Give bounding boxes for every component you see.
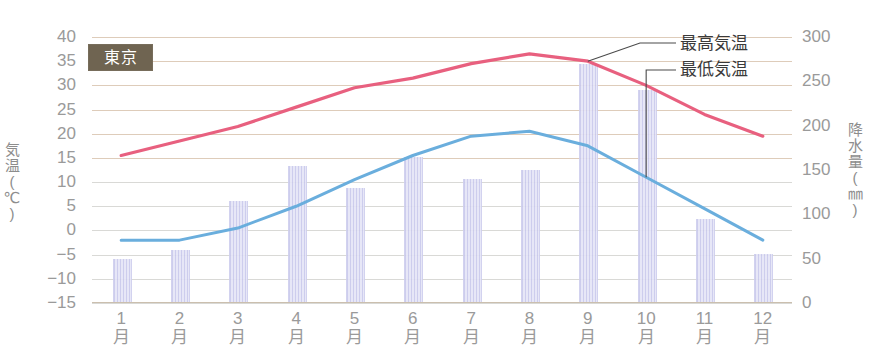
month-unit: 月 (451, 328, 491, 347)
x-axis-month-label: 3月 (218, 309, 258, 347)
month-unit: 月 (743, 328, 783, 347)
bar (579, 64, 598, 303)
bar (404, 157, 423, 303)
month-unit: 月 (393, 328, 433, 347)
month-number: 7 (451, 309, 491, 328)
y-tick-right: 150 (802, 161, 856, 178)
y-tick-left: 25 (22, 101, 76, 118)
climate-chart: 気温(℃) 降水量(㎜) 4035302520151050−5−10−15 30… (0, 0, 874, 361)
month-unit: 月 (510, 328, 550, 347)
x-axis-month-label: 8月 (510, 309, 550, 347)
bar (463, 179, 482, 303)
month-unit: 月 (685, 328, 725, 347)
bar (288, 166, 307, 303)
bar (638, 90, 657, 303)
y-tick-left: 30 (22, 76, 76, 93)
x-axis-month-label: 11月 (685, 309, 725, 347)
month-number: 11 (685, 309, 725, 328)
month-number: 4 (276, 309, 316, 328)
y-tick-left: 15 (22, 149, 76, 166)
y-tick-left: 40 (22, 28, 76, 45)
month-number: 1 (101, 309, 141, 328)
bar (346, 188, 365, 303)
y-tick-left: 35 (22, 52, 76, 69)
gridline (92, 255, 792, 256)
x-axis-baseline (92, 302, 792, 303)
gridline (92, 85, 792, 86)
month-unit: 月 (335, 328, 375, 347)
y-tick-right: 200 (802, 117, 856, 134)
y-tick-right: 100 (802, 205, 856, 222)
x-axis-month-label: 4月 (276, 309, 316, 347)
month-unit: 月 (276, 328, 316, 347)
y-tick-left: 10 (22, 173, 76, 190)
gridline (92, 110, 792, 111)
bar (754, 254, 773, 303)
x-axis-month-label: 10月 (626, 309, 666, 347)
month-unit: 月 (160, 328, 200, 347)
y-tick-right: 0 (802, 294, 856, 311)
x-axis-month-label: 7月 (451, 309, 491, 347)
y-tick-left: −5 (22, 246, 76, 263)
y-axis-left-title: 気温(℃) (2, 142, 22, 222)
month-number: 3 (218, 309, 258, 328)
month-number: 6 (393, 309, 433, 328)
x-axis-month-label: 9月 (568, 309, 608, 347)
gridline (92, 158, 792, 159)
month-number: 10 (626, 309, 666, 328)
x-axis-month-label: 12月 (743, 309, 783, 347)
month-number: 2 (160, 309, 200, 328)
y-tick-right: 300 (802, 28, 856, 45)
bar (229, 201, 248, 303)
y-tick-left: 5 (22, 197, 76, 214)
bar (521, 170, 540, 303)
month-unit: 月 (568, 328, 608, 347)
bar (696, 219, 715, 303)
month-number: 9 (568, 309, 608, 328)
y-tick-left: −15 (22, 294, 76, 311)
annotation-min-temp: 最低気温 (680, 60, 748, 79)
y-tick-right: 50 (802, 250, 856, 267)
y-tick-left: 20 (22, 125, 76, 142)
gridline (92, 206, 792, 207)
month-unit: 月 (101, 328, 141, 347)
y-tick-right: 250 (802, 72, 856, 89)
gridline (92, 182, 792, 183)
annotation-max-temp: 最高気温 (680, 34, 748, 53)
bar (113, 259, 132, 303)
y-tick-left: −10 (22, 270, 76, 287)
month-number: 5 (335, 309, 375, 328)
x-axis-month-label: 1月 (101, 309, 141, 347)
month-number: 12 (743, 309, 783, 328)
gridline (92, 230, 792, 231)
x-axis-month-label: 2月 (160, 309, 200, 347)
month-number: 8 (510, 309, 550, 328)
y-tick-left: 0 (22, 221, 76, 238)
city-badge: 東京 (88, 44, 153, 71)
gridline (92, 279, 792, 280)
month-unit: 月 (626, 328, 666, 347)
month-unit: 月 (218, 328, 258, 347)
x-axis-month-label: 5月 (335, 309, 375, 347)
gridline (92, 134, 792, 135)
x-axis-month-label: 6月 (393, 309, 433, 347)
gridline (92, 303, 792, 304)
bar (171, 250, 190, 303)
